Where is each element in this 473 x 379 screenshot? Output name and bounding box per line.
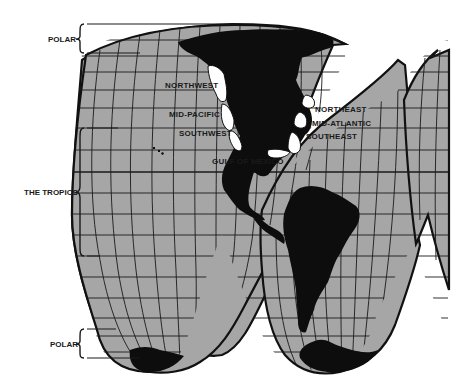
label-polar-south: POLAR <box>50 340 78 349</box>
polar-north-brace <box>76 24 84 53</box>
label-southwest: SOUTHWEST <box>179 129 232 138</box>
label-tropics: THE TROPICS <box>24 188 78 197</box>
label-northwest: NORTHWEST <box>165 81 218 90</box>
label-polar-north: POLAR <box>48 35 76 44</box>
label-northeast: NORTHEAST <box>315 105 367 114</box>
label-mid-pacific: MID-PACIFIC <box>169 110 220 119</box>
world-map: NORTHWEST MID-PACIFIC SOUTHWEST GULF OF … <box>0 0 473 379</box>
label-gulf-of-mexico: GULF OF MEXICO <box>212 157 284 166</box>
label-mid-atlantic: MID-ATLANTIC <box>312 119 371 128</box>
label-southeast: SOUTHEAST <box>306 132 357 141</box>
